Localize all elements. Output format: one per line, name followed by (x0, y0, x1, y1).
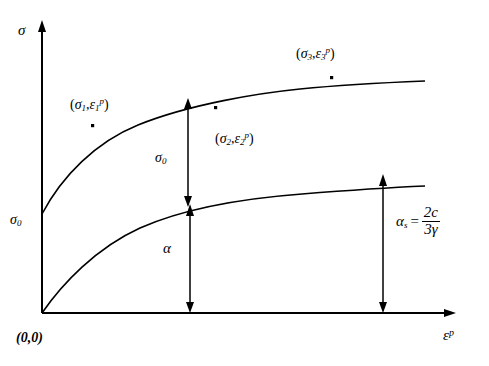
diagram-canvas (0, 0, 489, 366)
lower-curve (42, 186, 425, 313)
point-1-dot (91, 124, 94, 127)
origin-label: (0,0) (16, 330, 43, 346)
sigma0-gap-label: σ0 (155, 150, 166, 166)
alpha-measure-label: α (163, 240, 171, 257)
x-axis-label: εp (443, 327, 454, 344)
point-2-dot (214, 106, 217, 109)
fraction-denominator: 3γ (422, 221, 439, 238)
sigma0-double-arrow (184, 98, 192, 207)
fraction-numerator: 2c (422, 205, 440, 221)
y-axis-label: σ (18, 22, 25, 39)
alpha-s-equation: αs = 2c 3γ (396, 205, 440, 238)
point-3-dot (330, 76, 333, 79)
alpha-s-double-arrow (379, 174, 387, 313)
point-3-label: (σ3,ε3p) (296, 45, 335, 62)
fraction: 2c 3γ (422, 205, 440, 238)
y-intercept-sigma0-label: σ0 (10, 212, 21, 228)
point-1-label: (σ1,ε1p) (70, 96, 109, 113)
point-2-label: (σ2,ε2p) (215, 130, 254, 147)
alpha-double-arrow (186, 204, 194, 313)
y-axis (38, 20, 46, 313)
equals-sign: = (410, 213, 418, 230)
x-axis (42, 309, 456, 317)
